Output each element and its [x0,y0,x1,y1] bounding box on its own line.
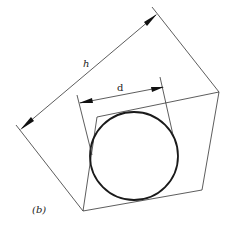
rotated-square [83,92,219,211]
h-label: h [83,58,89,69]
geometry-diagram: h d (b) [0,0,233,232]
h-arrow-left-icon [20,117,34,130]
d-label: d [117,82,124,93]
h-arrow-right-icon [144,14,157,26]
h-extension-line-right [152,7,219,92]
d-arrow-right-icon [151,87,164,92]
panel-label: (b) [32,204,46,215]
h-dimension-line [22,15,156,128]
inscribed-circle [90,112,178,200]
h-extension-line-left [16,125,83,211]
d-arrow-left-icon [79,98,93,103]
d-extension-line-left [77,95,92,155]
